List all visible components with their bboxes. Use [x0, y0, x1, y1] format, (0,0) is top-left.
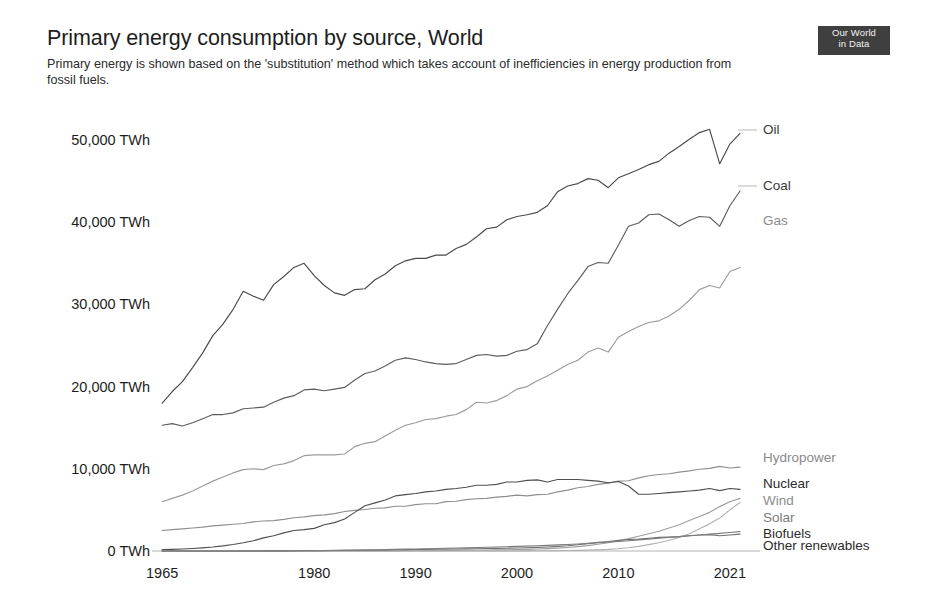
series-line-hydropower[interactable]: [162, 466, 740, 530]
series-label-nuclear[interactable]: Nuclear: [763, 476, 810, 491]
y-axis-tick-label: 30,000 TWh: [71, 296, 150, 312]
series-labels-group: OilCoalGasHydropowerNuclearWindSolarBiof…: [738, 122, 870, 553]
series-label-other-renewables[interactable]: Other renewables: [763, 538, 870, 553]
data-series-group: [162, 129, 740, 551]
x-axis-tick-label: 2010: [602, 565, 634, 581]
y-axis-tick-label: 0 TWh: [108, 543, 150, 559]
x-axis-tick-label: 2000: [501, 565, 533, 581]
series-label-gas[interactable]: Gas: [763, 213, 788, 228]
y-axis-tick-label: 10,000 TWh: [71, 461, 150, 477]
line-chart-svg: 0 TWh10,000 TWh20,000 TWh30,000 TWh40,00…: [0, 0, 929, 604]
series-line-oil[interactable]: [162, 129, 740, 403]
y-axis-tick-label: 40,000 TWh: [71, 214, 150, 230]
y-axis-tick-label: 20,000 TWh: [71, 379, 150, 395]
series-label-hydropower[interactable]: Hydropower: [763, 450, 836, 465]
x-axis: 196519801990200020102021: [146, 565, 746, 581]
series-label-oil[interactable]: Oil: [763, 122, 780, 137]
series-label-solar[interactable]: Solar: [763, 510, 795, 525]
x-axis-tick-label: 1965: [146, 565, 178, 581]
series-label-wind[interactable]: Wind: [763, 493, 794, 508]
x-axis-tick-label: 2021: [714, 565, 746, 581]
x-axis-tick-label: 1990: [399, 565, 431, 581]
chart-container: Primary energy consumption by source, Wo…: [0, 0, 929, 604]
y-axis-tick-label: 50,000 TWh: [71, 132, 150, 148]
series-line-wind[interactable]: [162, 498, 740, 551]
series-line-gas[interactable]: [162, 267, 740, 501]
x-axis-tick-label: 1980: [298, 565, 330, 581]
series-line-coal[interactable]: [162, 191, 740, 426]
series-label-coal[interactable]: Coal: [763, 178, 791, 193]
series-line-solar[interactable]: [162, 503, 740, 552]
y-axis: 0 TWh10,000 TWh20,000 TWh30,000 TWh40,00…: [71, 132, 760, 559]
